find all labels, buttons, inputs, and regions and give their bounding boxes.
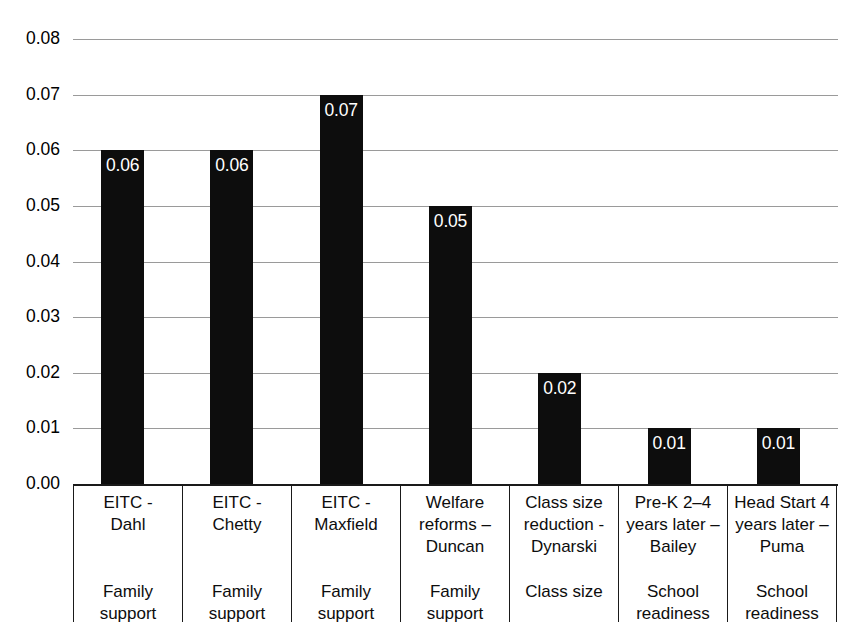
category-group-line: Family: [75, 581, 181, 603]
category-table: EITC -DahlFamilysupportEITC -ChettyFamil…: [73, 484, 837, 622]
category-group-line: support: [75, 603, 181, 625]
bar-value-label: 0.07: [320, 100, 363, 120]
category-name: Pre-K 2–4years later –Bailey: [620, 492, 726, 558]
category-cell: EITC -DahlFamilysupport: [74, 485, 183, 622]
category-group-line: readiness: [620, 603, 726, 625]
category-name: Class sizereduction -Dynarski: [511, 492, 617, 558]
category-group: Schoolreadiness: [620, 581, 726, 625]
bar-value-label: 0.02: [538, 378, 581, 398]
category-name-line: Chetty: [184, 514, 290, 536]
category-group-line: School: [729, 581, 835, 603]
category-group: Familysupport: [184, 581, 290, 625]
category-group-line: School: [620, 581, 726, 603]
category-group: Schoolreadiness: [729, 581, 835, 625]
category-name-line: years later –: [620, 514, 726, 536]
category-group: Familysupport: [75, 581, 181, 625]
bar-value-label: 0.06: [210, 155, 253, 175]
category-group-line: Family: [402, 581, 508, 603]
category-cell: Welfarereforms –DuncanFamilysupport: [401, 485, 510, 622]
category-name-line: Welfare: [402, 492, 508, 514]
bar-chart-figure: 0.080.070.060.050.040.030.020.010.00 0.0…: [0, 0, 860, 641]
category-name-line: Puma: [729, 536, 835, 558]
gridline: [73, 95, 838, 96]
category-group-line: support: [184, 603, 290, 625]
bar: 0.05: [429, 206, 472, 484]
plot-area: 0.060.060.070.050.020.010.01: [73, 39, 838, 484]
y-axis-tick-label: 0.07: [0, 86, 60, 104]
category-cell: Head Start 4years later –PumaSchoolreadi…: [728, 485, 836, 622]
y-axis-tick-label: 0.05: [0, 197, 60, 215]
category-name: EITC -Maxfield: [293, 492, 399, 536]
category-cell: EITC -ChettyFamilysupport: [183, 485, 292, 622]
category-group-line: support: [402, 603, 508, 625]
y-axis-tick-label: 0.06: [0, 141, 60, 159]
y-axis-tick-label: 0.00: [0, 475, 60, 493]
category-group: Familysupport: [293, 581, 399, 625]
bar: 0.06: [101, 150, 144, 484]
category-name-line: Bailey: [620, 536, 726, 558]
category-cell: EITC -MaxfieldFamilysupport: [292, 485, 401, 622]
category-name-line: EITC -: [75, 492, 181, 514]
bar-value-label: 0.05: [429, 211, 472, 231]
category-name-line: Duncan: [402, 536, 508, 558]
category-group-line: readiness: [729, 603, 835, 625]
y-axis-tick-label: 0.03: [0, 308, 60, 326]
category-name-line: Class size: [511, 492, 617, 514]
category-name: Head Start 4years later –Puma: [729, 492, 835, 558]
y-axis-tick-label: 0.01: [0, 419, 60, 437]
category-name: EITC -Chetty: [184, 492, 290, 536]
bar: 0.07: [320, 95, 363, 484]
category-group-line: support: [293, 603, 399, 625]
category-name-line: years later –: [729, 514, 835, 536]
category-name-line: Pre-K 2–4: [620, 492, 726, 514]
category-name-line: Maxfield: [293, 514, 399, 536]
y-axis-tick-label: 0.08: [0, 30, 60, 48]
bar: 0.01: [648, 428, 691, 484]
category-name-line: EITC -: [184, 492, 290, 514]
bar-value-label: 0.01: [757, 433, 800, 453]
category-group-line: Class size: [511, 581, 617, 603]
bar: 0.02: [538, 373, 581, 484]
category-name-line: reforms –: [402, 514, 508, 536]
category-name: EITC -Dahl: [75, 492, 181, 536]
category-name-line: EITC -: [293, 492, 399, 514]
y-axis-tick-label: 0.02: [0, 364, 60, 382]
category-name-line: Dynarski: [511, 536, 617, 558]
bar-value-label: 0.01: [648, 433, 691, 453]
bar: 0.01: [757, 428, 800, 484]
y-axis: 0.080.070.060.050.040.030.020.010.00: [0, 39, 66, 484]
y-axis-tick-label: 0.04: [0, 253, 60, 271]
category-cell: Pre-K 2–4years later –BaileySchoolreadin…: [619, 485, 728, 622]
category-group-line: Family: [184, 581, 290, 603]
gridline: [73, 150, 838, 151]
category-cell: Class sizereduction -DynarskiClass size: [510, 485, 619, 622]
bar: 0.06: [210, 150, 253, 484]
category-name-line: Dahl: [75, 514, 181, 536]
category-group: Familysupport: [402, 581, 508, 625]
category-name-line: Head Start 4: [729, 492, 835, 514]
category-name-line: reduction -: [511, 514, 617, 536]
category-group-line: Family: [293, 581, 399, 603]
category-name: Welfarereforms –Duncan: [402, 492, 508, 558]
bar-value-label: 0.06: [101, 155, 144, 175]
category-group: Class size: [511, 581, 617, 603]
gridline: [73, 39, 838, 40]
